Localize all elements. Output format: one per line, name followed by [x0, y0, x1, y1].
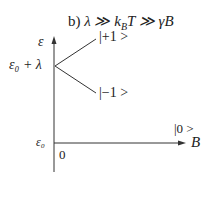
- state-zero-label: |0 >: [174, 121, 194, 137]
- x-axis-arrow-icon: [178, 141, 186, 146]
- state-lower-label: |−1 >: [99, 85, 128, 101]
- y-axis-arrow-icon: [52, 36, 57, 44]
- x-origin-label: 0: [59, 147, 66, 163]
- y-tick-origin-label: ε₀: [36, 135, 45, 150]
- y-tick-upper-label: ε₀ + λ: [9, 57, 42, 73]
- state-upper-label: |+1 >: [99, 29, 128, 45]
- y-axis-label: ε: [38, 34, 44, 50]
- upper-level-line: [55, 39, 96, 66]
- lower-level-line: [55, 66, 96, 93]
